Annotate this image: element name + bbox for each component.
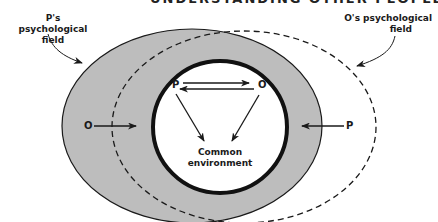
common-environment-line2: environment — [182, 158, 258, 169]
p-field-label: P's psychological field — [10, 13, 96, 46]
o-field-label: O's psychological field — [342, 13, 432, 35]
p-field-label-line2: field — [10, 35, 96, 46]
o-field-label-line2: field — [342, 24, 432, 35]
o-field-label-line1: O's psychological — [342, 13, 432, 24]
o-field-pointer-arrow — [357, 36, 395, 66]
inner-p-letter: P — [172, 79, 179, 90]
outer-p-letter: P — [346, 120, 353, 131]
common-environment-line1: Common — [182, 147, 258, 158]
p-field-label-line1: P's psychological — [10, 13, 96, 35]
common-environment-label: Common environment — [182, 147, 258, 169]
inner-o-letter: O — [258, 79, 267, 90]
outer-o-letter: O — [84, 120, 93, 131]
